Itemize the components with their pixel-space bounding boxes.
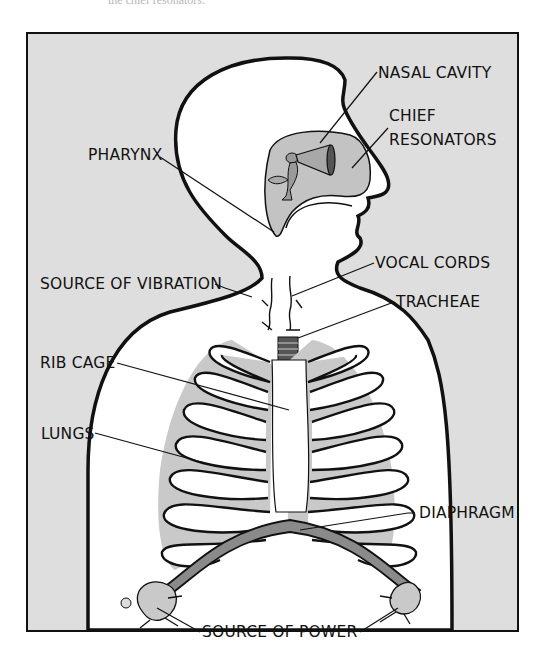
label-resonators: RESONATORS — [389, 133, 497, 149]
label-pharynx: PHARYNX — [88, 148, 162, 164]
label-diaphragm: DIAPHRAGM — [419, 506, 515, 522]
sternum — [272, 360, 309, 512]
label-nasal-cavity: NASAL CAVITY — [378, 66, 491, 82]
label-source-of-power: SOURCE OF POWER — [202, 625, 357, 641]
label-chief: CHIEF — [389, 109, 436, 125]
label-rib-cage: RIB CAGE — [40, 356, 115, 372]
label-vocal-cords: VOCAL CORDS — [375, 256, 490, 272]
vocal-anatomy-illustration — [0, 0, 538, 656]
label-lungs: LUNGS — [41, 427, 95, 443]
label-source-of-vibration: SOURCE OF VIBRATION — [40, 277, 222, 293]
label-tracheae: TRACHEAE — [396, 295, 480, 311]
